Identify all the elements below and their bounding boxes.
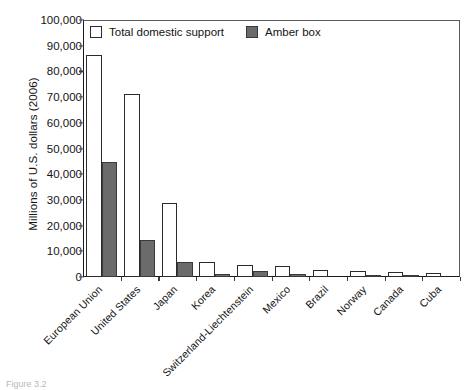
bar-total-domestic-support	[426, 273, 442, 277]
chart-figure: Millions of U.S. dollars (2006) 100,0009…	[0, 0, 475, 390]
bar-total-domestic-support	[388, 272, 404, 277]
bar-amber-box	[403, 275, 419, 277]
y-axis-tick-label: 30,000	[0, 194, 82, 206]
legend-item-amber-box: Amber box	[246, 26, 321, 38]
filled-square-swatch-icon	[246, 26, 258, 38]
y-axis-tick-label: 10,000	[0, 245, 82, 257]
x-axis-tick-label: Japan	[150, 283, 179, 312]
bar-amber-box	[177, 262, 193, 277]
x-axis-tick-label-text: Korea	[189, 283, 218, 312]
x-axis-tick-mark	[309, 277, 310, 281]
bar-total-domestic-support	[313, 270, 329, 277]
x-axis-tick-label-text: Cuba	[417, 283, 444, 310]
y-axis-tick-label: 70,000	[0, 91, 82, 103]
x-axis-tick-label: Mexico	[260, 283, 293, 316]
y-axis-tick-label: 40,000	[0, 168, 82, 180]
x-axis-tick-label-text: Mexico	[260, 283, 293, 316]
y-axis-tick-label: 80,000	[0, 65, 82, 77]
bar-amber-box	[290, 274, 306, 277]
bar-total-domestic-support	[275, 266, 291, 277]
y-axis-tick-label: 50,000	[0, 143, 82, 155]
x-axis-tick-mark	[234, 277, 235, 281]
x-axis-tick-label-text: Brazil	[303, 283, 331, 311]
bars-layer	[83, 20, 460, 277]
open-square-swatch-icon	[90, 26, 102, 38]
chart-legend: Total domestic support Amber box	[83, 20, 351, 43]
x-axis-tick-label: Norway	[334, 283, 368, 317]
x-axis-tick-label-text: European Union	[41, 283, 105, 347]
bar-total-domestic-support	[162, 203, 178, 277]
bar-total-domestic-support	[199, 262, 215, 277]
x-axis-tick-label: European Union	[41, 283, 105, 347]
y-axis-tick-label: 0	[0, 271, 82, 283]
legend-item-total-domestic-support: Total domestic support	[90, 26, 224, 38]
bar-total-domestic-support	[124, 94, 140, 277]
x-axis-tick-mark	[121, 277, 122, 281]
bar-amber-box	[102, 162, 118, 277]
bar-total-domestic-support	[350, 271, 366, 277]
figure-caption: Figure 3.2	[6, 379, 47, 389]
legend-label: Amber box	[265, 26, 321, 38]
bar-amber-box	[366, 275, 382, 277]
bar-total-domestic-support	[237, 265, 253, 277]
x-axis-tick-label: Brazil	[303, 283, 331, 311]
bar-amber-box	[140, 240, 156, 277]
bar-amber-box	[253, 271, 269, 277]
x-axis-tick-label: Korea	[189, 283, 218, 312]
y-axis-tick-label: 20,000	[0, 220, 82, 232]
y-axis-tick-label: 100,000	[0, 14, 82, 26]
y-axis-tick-label: 60,000	[0, 117, 82, 129]
x-axis-tick-mark	[422, 277, 423, 281]
x-axis-tick-label: Canada	[371, 283, 406, 318]
x-axis-tick-mark	[347, 277, 348, 281]
bar-total-domestic-support	[86, 55, 102, 277]
x-axis-tick-label-text: Canada	[371, 283, 406, 318]
x-axis-tick-mark	[158, 277, 159, 281]
x-axis-tick-label-text: Japan	[150, 283, 179, 312]
x-axis-tick-mark	[272, 277, 273, 281]
bar-amber-box	[215, 274, 231, 277]
x-axis-tick-mark	[460, 277, 461, 281]
legend-label: Total domestic support	[109, 26, 224, 38]
x-axis-tick-mark	[196, 277, 197, 281]
x-axis-tick-label: Cuba	[417, 283, 444, 310]
x-axis-tick-mark	[385, 277, 386, 281]
y-axis-tick-label: 90,000	[0, 40, 82, 52]
x-axis-tick-label-text: Norway	[334, 283, 368, 317]
